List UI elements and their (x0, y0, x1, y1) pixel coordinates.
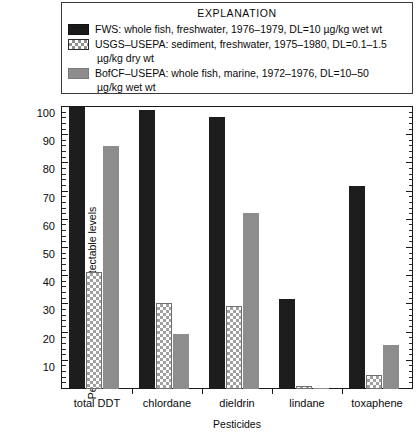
y-axis-minor-tick (409, 337, 413, 338)
y-axis-minor-tick (409, 253, 413, 254)
y-axis-minor-tick (62, 112, 66, 113)
y-axis-minor-tick (62, 326, 66, 327)
y-axis-minor-tick (409, 112, 413, 113)
y-axis-minor-tick (409, 213, 413, 214)
legend-title: EXPLANATION (66, 7, 408, 19)
y-axis-minor-tick (409, 202, 413, 203)
y-axis-minor-tick (62, 264, 66, 265)
y-axis-major-tick (406, 303, 412, 304)
y-axis-minor-tick (62, 208, 66, 209)
legend-item-bofcf: BofCF–USEPA: whole fish, marine, 1972–19… (68, 67, 408, 80)
y-axis-minor-tick (62, 117, 66, 118)
y-axis-minor-tick (62, 309, 66, 310)
y-axis-minor-tick (62, 298, 66, 299)
y-axis-minor-tick (409, 157, 413, 158)
bar-bofcf-usepa (313, 388, 330, 389)
y-axis-minor-tick (409, 286, 413, 287)
y-axis-minor-tick (409, 343, 413, 344)
y-axis-minor-tick (62, 253, 66, 254)
solid-gray-swatch-icon (68, 68, 89, 79)
y-axis-minor-tick (62, 286, 66, 287)
y-axis-minor-tick (409, 230, 413, 231)
x-axis-category-label: lindane (289, 397, 324, 409)
x-axis-category-label: toxaphene (351, 397, 402, 409)
y-axis-minor-tick (409, 270, 413, 271)
y-axis-major-tick (62, 360, 68, 361)
y-axis-minor-tick (62, 365, 66, 366)
y-axis-minor-tick (409, 179, 413, 180)
legend-item-fws: FWS: whole fish, freshwater, 1976–1979, … (68, 23, 408, 36)
y-axis-major-tick (406, 106, 412, 107)
bar-bofcf-usepa (173, 334, 190, 389)
y-axis-minor-tick (409, 371, 413, 372)
y-axis-minor-tick (409, 315, 413, 316)
bar-fws (69, 107, 86, 389)
bar-fws (349, 186, 366, 389)
bar-usgs-usepa (226, 306, 243, 389)
y-axis-minor-tick (409, 365, 413, 366)
x-axis-tick (342, 389, 343, 394)
y-axis-major-tick (62, 191, 68, 192)
y-axis-major-tick (406, 332, 412, 333)
y-axis-minor-tick (62, 292, 66, 293)
y-axis-major-tick (406, 275, 412, 276)
x-axis-category-label: dieldrin (219, 397, 254, 409)
y-axis-minor-tick (62, 179, 66, 180)
bar-chart-plot-area: Percentage of sites with detectable leve… (62, 107, 412, 389)
x-axis-tick (202, 389, 203, 394)
y-axis-major-tick (62, 303, 68, 304)
y-axis-minor-tick (409, 140, 413, 141)
y-axis-minor-tick (409, 129, 413, 130)
y-axis-minor-tick (62, 129, 66, 130)
y-axis-minor-tick (409, 208, 413, 209)
y-axis-minor-tick (62, 315, 66, 316)
y-axis-minor-tick (62, 337, 66, 338)
y-axis-minor-tick (62, 382, 66, 383)
y-axis-minor-tick (409, 145, 413, 146)
y-axis-minor-tick (409, 326, 413, 327)
bar-usgs-usepa (86, 272, 103, 389)
y-axis-minor-tick (409, 185, 413, 186)
y-axis-minor-tick (409, 298, 413, 299)
y-axis-minor-tick (409, 174, 413, 175)
checkered-swatch-icon (68, 39, 89, 50)
y-axis-minor-tick (62, 343, 66, 344)
x-axis-category-label: chlordane (143, 397, 191, 409)
bar-bofcf-usepa (383, 345, 400, 389)
y-axis-minor-tick (409, 236, 413, 237)
y-axis-major-tick (406, 247, 412, 248)
y-axis-major-tick (406, 162, 412, 163)
y-axis-minor-tick (409, 241, 413, 242)
y-axis-major-tick (62, 332, 68, 333)
legend-item-usgs-label-continued: µg/kg dry wt (97, 52, 408, 65)
y-axis-minor-tick (62, 236, 66, 237)
y-axis-minor-tick (62, 168, 66, 169)
y-axis-minor-tick (62, 241, 66, 242)
y-axis-major-tick (62, 134, 68, 135)
y-axis-major-tick (406, 219, 412, 220)
y-axis-minor-tick (62, 270, 66, 271)
y-axis-minor-tick (62, 196, 66, 197)
y-axis-minor-tick (62, 140, 66, 141)
x-axis-title: Pesticides (62, 418, 412, 430)
bar-bofcf-usepa (103, 146, 120, 389)
y-axis-minor-tick (409, 123, 413, 124)
legend-item-usgs-label: USGS–USEPA: sediment, freshwater, 1975–1… (95, 38, 387, 51)
y-axis-minor-tick (409, 117, 413, 118)
y-axis-minor-tick (409, 281, 413, 282)
y-axis-minor-tick (62, 281, 66, 282)
y-axis-minor-tick (62, 354, 66, 355)
y-axis-minor-tick (62, 202, 66, 203)
y-axis-major-tick (62, 106, 68, 107)
bar-usgs-usepa (296, 386, 313, 389)
bar-fws (279, 299, 296, 389)
y-axis-minor-tick (62, 377, 66, 378)
bar-usgs-usepa (156, 303, 173, 389)
y-axis-minor-tick (62, 349, 66, 350)
y-axis-major-tick (406, 360, 412, 361)
legend-item-usgs: USGS–USEPA: sediment, freshwater, 1975–1… (68, 38, 408, 51)
y-axis-major-tick (406, 191, 412, 192)
legend-item-bofcf-label: BofCF–USEPA: whole fish, marine, 1972–19… (95, 67, 369, 80)
x-axis-tick (132, 389, 133, 394)
y-axis-minor-tick (409, 224, 413, 225)
